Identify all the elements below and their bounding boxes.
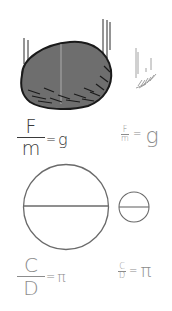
result-pi: π bbox=[140, 262, 151, 280]
result-pi: π bbox=[57, 270, 65, 284]
numerator-c: C bbox=[24, 255, 38, 275]
rock-icon bbox=[21, 42, 111, 109]
equals-sign: = bbox=[129, 266, 137, 276]
equals-sign: = bbox=[133, 129, 141, 139]
denominator-m: m bbox=[22, 139, 41, 158]
equals-sign: = bbox=[46, 271, 55, 282]
motion-lines-right-icon bbox=[103, 19, 110, 58]
formula-force-over-mass-small: F m = g bbox=[121, 121, 159, 147]
denominator-d: D bbox=[119, 272, 125, 280]
result-g: g bbox=[145, 125, 158, 147]
formula-circumference-over-diameter-large: C D = π bbox=[17, 255, 66, 298]
result-g: g bbox=[58, 132, 68, 148]
denominator-m: m bbox=[121, 135, 129, 143]
equals-sign: = bbox=[46, 133, 56, 145]
formula-circumference-over-diameter-small: C D = π bbox=[118, 262, 151, 280]
numerator-f: F bbox=[26, 117, 37, 136]
denominator-d: D bbox=[23, 278, 38, 298]
large-circle-diameter-icon bbox=[24, 165, 109, 250]
numerator-c: C bbox=[119, 263, 125, 271]
feather-icon bbox=[136, 48, 156, 88]
formula-force-over-mass-large: F m = g bbox=[17, 117, 68, 158]
small-circle-diameter-icon bbox=[119, 192, 149, 222]
numerator-f: F bbox=[123, 126, 128, 134]
